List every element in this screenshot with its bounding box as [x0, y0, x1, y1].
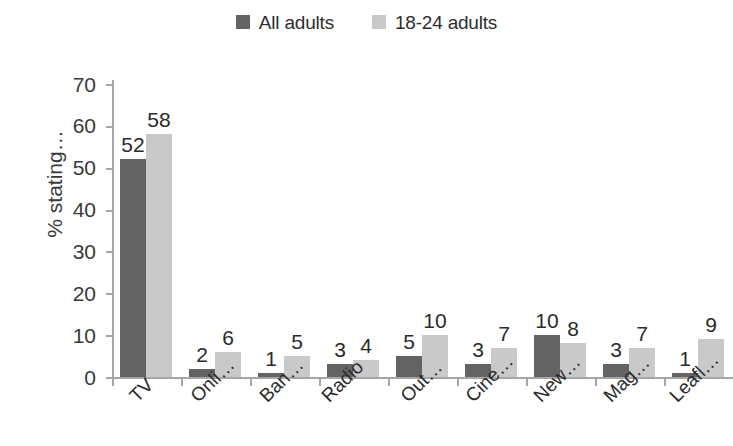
bar-group-radio: 3 4 [319, 84, 388, 377]
bar-group-magazines: 3 7 [595, 84, 664, 377]
bar-value-18-24-adults-leaflets: 9 [692, 314, 730, 335]
x-tick-3 [319, 377, 321, 386]
legend-item-18-24-adults[interactable]: 18-24 adults [372, 13, 497, 32]
bar-value-all-adults-tv: 52 [114, 134, 152, 155]
bar-value-all-adults-outdoor: 5 [390, 331, 428, 352]
y-tick-label-60: 60 [73, 115, 96, 136]
plot-area: 52 58 2 6 1 5 3 4 5 10 [112, 84, 733, 377]
y-tick-label-0: 0 [84, 367, 96, 388]
bar-group-cinema: 3 7 [457, 84, 526, 377]
x-tick-0 [112, 377, 114, 386]
bar-group-outdoor: 5 10 [388, 84, 457, 377]
y-tick-label-50: 50 [73, 157, 96, 178]
legend-item-all-adults[interactable]: All adults [236, 13, 334, 32]
bar-value-18-24-adults-tv: 58 [140, 109, 178, 130]
bar-group-online: 2 6 [181, 84, 250, 377]
bar-value-18-24-adults-cinema: 7 [485, 323, 523, 344]
legend-swatch-all-adults [236, 15, 250, 29]
bar-value-18-24-adults-online: 6 [209, 327, 247, 348]
x-tick-5 [457, 377, 459, 386]
legend-label-all-adults: All adults [259, 13, 334, 32]
x-tick-6 [526, 377, 528, 386]
bar-chart: All adults 18-24 adults % stating… 0 10 … [0, 0, 733, 446]
bar-value-18-24-adults-banners: 5 [278, 331, 316, 352]
x-tick-4 [388, 377, 390, 386]
bar-group-leaflets: 1 9 [664, 84, 733, 377]
bar-value-18-24-adults-radio: 4 [347, 335, 385, 356]
bar-value-18-24-adults-magazines: 7 [623, 323, 661, 344]
bar-value-18-24-adults-outdoor: 10 [416, 310, 454, 331]
bar-group-banners: 1 5 [250, 84, 319, 377]
y-tick-label-20: 20 [73, 283, 96, 304]
bar-group-tv: 52 58 [112, 84, 181, 377]
legend-swatch-18-24-adults [372, 15, 386, 29]
y-axis-tick-labels: 0 10 20 30 40 50 60 70 [0, 0, 112, 446]
x-label-tv: TV [126, 375, 157, 406]
x-tick-1 [181, 377, 183, 386]
x-tick-8 [664, 377, 666, 386]
y-tick-label-40: 40 [73, 199, 96, 220]
bar-group-newspapers: 10 8 [526, 84, 595, 377]
x-tick-7 [595, 377, 597, 386]
bar-all-adults-tv[interactable] [120, 159, 146, 377]
bar-18-24-adults-tv[interactable] [146, 134, 172, 377]
y-tick-label-10: 10 [73, 325, 96, 346]
x-tick-2 [250, 377, 252, 386]
y-tick-label-70: 70 [73, 74, 96, 95]
y-tick-label-30: 30 [73, 241, 96, 262]
bar-value-18-24-adults-newspapers: 8 [554, 318, 592, 339]
legend-label-18-24-adults: 18-24 adults [395, 13, 497, 32]
